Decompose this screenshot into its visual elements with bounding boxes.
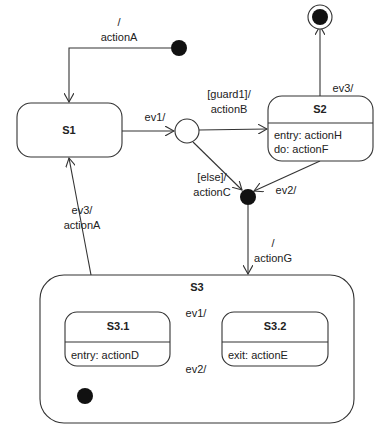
label-actionG: actionG	[254, 252, 292, 265]
state-s2-entry: entry: actionH	[274, 129, 342, 142]
state-s1-name: S1	[62, 124, 75, 137]
final-state-core	[312, 9, 328, 25]
label-initial-slash: /	[117, 16, 120, 29]
state-s3-1-name: S3.1	[107, 320, 130, 333]
transition-choice-to-s2	[199, 129, 267, 130]
state-s3-name: S3	[190, 281, 203, 294]
label-s2-ev3: ev3/	[333, 82, 354, 95]
label-initial-action: actionA	[101, 31, 138, 44]
initial-pseudostate-top	[171, 40, 187, 56]
label-s3-ev3: ev3/	[72, 204, 93, 217]
state-s3-2-name: S3.2	[264, 320, 287, 333]
label-junction-slash: /	[271, 237, 274, 250]
choice-pseudostate	[175, 119, 199, 143]
initial-pseudostate-inner	[77, 388, 93, 404]
label-s1-ev1: ev1/	[145, 111, 166, 124]
label-actionB: actionB	[211, 103, 248, 116]
state-s3-2-exit: exit: actionE	[228, 349, 288, 362]
label-actionC: actionC	[193, 186, 230, 199]
state-s2-do: do: actionF	[274, 143, 328, 156]
state-s2-name: S2	[313, 103, 326, 116]
junction-pseudostate	[240, 189, 256, 205]
transition-initial-to-s1	[69, 48, 171, 102]
label-else: [else]/	[197, 171, 226, 184]
label-s3-actionA: actionA	[64, 219, 101, 232]
state-s3-1-entry: entry: actionD	[71, 349, 139, 362]
label-s2-ev2: ev2/	[276, 184, 297, 197]
label-s3-2-ev2: ev2/	[186, 363, 207, 376]
label-s3-1-ev1: ev1/	[186, 307, 207, 320]
label-guard1: [guard1]/	[207, 88, 250, 101]
